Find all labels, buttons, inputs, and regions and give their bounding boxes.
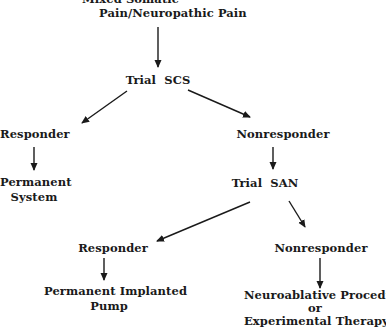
arrow-trial-scs-to-responder <box>82 91 127 123</box>
node-permanent-implanted-pump: Permanent Implanted Pump <box>44 284 174 314</box>
node-line: Pump <box>44 299 174 314</box>
arrow-trial-scs-to-nonresponder <box>188 90 250 117</box>
node-line: Pain/Neuropathic Pain <box>82 6 232 20</box>
node-san-nonresponder: Nonresponder <box>274 241 368 255</box>
node-trial-san: Trial SAN <box>225 176 305 190</box>
node-mixed-somatic-pain: Mixed Somatic Pain/Neuropathic Pain <box>82 0 232 20</box>
node-label: Responder <box>76 241 150 255</box>
node-label: Trial SAN <box>225 176 305 190</box>
arrow-trial-san-to-responder <box>157 202 250 241</box>
node-line: Permanent <box>0 175 68 190</box>
arrow-trial-san-to-nonresponder <box>289 201 305 227</box>
node-label: Trial SCS <box>118 73 198 87</box>
node-trial-scs: Trial SCS <box>118 73 198 87</box>
arrows-layer <box>0 0 386 329</box>
node-scs-nonresponder: Nonresponder <box>236 127 330 141</box>
node-line: Permanent Implanted <box>44 284 174 299</box>
node-permanent-system: Permanent System <box>0 175 68 205</box>
node-neuroablative-procedure: Neuroablative Procedure or Experimental … <box>244 289 386 328</box>
node-label: Nonresponder <box>274 241 368 255</box>
node-san-responder: Responder <box>76 241 150 255</box>
node-line: Experimental Therapy <box>244 315 386 328</box>
node-label: Nonresponder <box>236 127 330 141</box>
node-line: System <box>0 190 68 205</box>
node-label: Responder <box>0 127 68 141</box>
node-scs-responder: Responder <box>0 127 68 141</box>
